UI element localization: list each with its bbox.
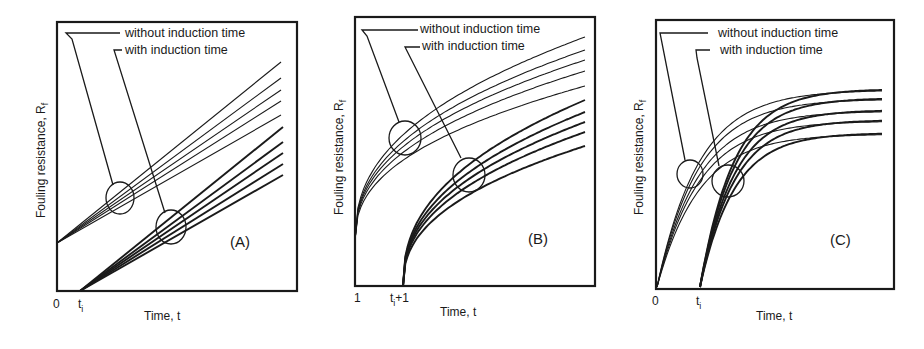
panel-a: without induction time with induction ti…: [34, 22, 297, 323]
panel-a-ylabel: Fouling resistance, Rf: [34, 102, 50, 218]
panel-c-leader-without: [660, 33, 708, 160]
panel-c-frame: [656, 20, 894, 289]
panel-a-leaders: [66, 33, 186, 244]
panel-b-leaders: [362, 30, 485, 192]
panel-a-xtick-1: ti: [78, 297, 83, 314]
panel-b-circle-without: [389, 121, 421, 155]
panel-c: without induction time with induction ti…: [632, 20, 894, 323]
panel-c-curve-without-1: [657, 100, 882, 287]
ylabel-main: Fouling resistance, R: [632, 102, 646, 215]
panel-b-curves: [355, 37, 585, 286]
tick-suffix: +1: [395, 291, 409, 305]
panel-a-circle-without: [106, 182, 134, 214]
panel-c-xtick-1: ti: [696, 294, 701, 311]
panel-a-curve-without-4: [57, 115, 281, 243]
panel-c-xlabel: Time, t: [756, 309, 793, 323]
panel-a-frame: [57, 22, 297, 291]
ylabel-sub: f: [338, 99, 348, 102]
tick-sub: i: [81, 304, 83, 314]
panel-b-curve-without-2: [355, 60, 585, 240]
panel-a-curve-with-3: [80, 164, 283, 291]
panel-c-xtick-0: 0: [652, 294, 659, 308]
panel-c-legend-with: with induction time: [719, 43, 823, 57]
panel-b-ylabel: Fouling resistance, Rf: [332, 99, 348, 215]
panel-b: without induction time with induction ti…: [332, 17, 595, 319]
panel-a-curve-without-3: [57, 101, 281, 243]
panel-c-curve-without-2: [657, 112, 882, 287]
panel-b-legend-without: without induction time: [419, 22, 540, 36]
panel-c-curve-with-4: [700, 134, 882, 287]
panel-c-label: (C): [830, 231, 851, 248]
panel-b-frame: [355, 17, 595, 286]
panel-a-curve-without-0: [57, 62, 281, 243]
panel-a-legend-without: without induction time: [124, 26, 245, 40]
panel-b-label: (B): [528, 230, 548, 247]
tick-sub: i: [699, 301, 701, 311]
ylabel-sub: f: [638, 99, 648, 102]
panel-a-xlabel: Time, t: [144, 309, 181, 323]
panel-c-curve-with-2: [700, 111, 882, 287]
panel-a-legend-with: with induction time: [124, 43, 228, 57]
panel-c-curve-without-4: [657, 135, 882, 287]
panel-c-legend-without: without induction time: [717, 26, 838, 40]
panel-c-ylabel: Fouling resistance, Rf: [632, 99, 648, 215]
fouling-figure: without induction time with induction ti…: [0, 0, 924, 349]
panel-b-leader-without: [362, 30, 418, 122]
ylabel-sub: f: [40, 102, 50, 105]
panel-b-xlabel: Time, t: [440, 305, 477, 319]
panel-a-leader-without: [66, 33, 120, 185]
ylabel-main: Fouling resistance, R: [34, 105, 48, 218]
panel-b-curve-with-1: [403, 112, 585, 286]
panel-c-curve-without-3: [657, 122, 882, 287]
panel-b-leader-with: [405, 47, 461, 158]
panel-a-curve-with-4: [80, 175, 283, 291]
panel-b-xtick-0: 1: [354, 291, 361, 305]
ylabel-main: Fouling resistance, R: [332, 102, 346, 215]
panel-b-circle-with: [453, 158, 485, 192]
panel-a-leader-with: [114, 50, 165, 213]
panel-a-xtick-0: 0: [53, 297, 60, 311]
panel-a-label: (A): [230, 233, 250, 250]
panel-b-xtick-1: ti+1: [390, 291, 409, 308]
panel-a-curves: [57, 62, 283, 291]
panel-b-legend-with: with induction time: [421, 39, 525, 53]
